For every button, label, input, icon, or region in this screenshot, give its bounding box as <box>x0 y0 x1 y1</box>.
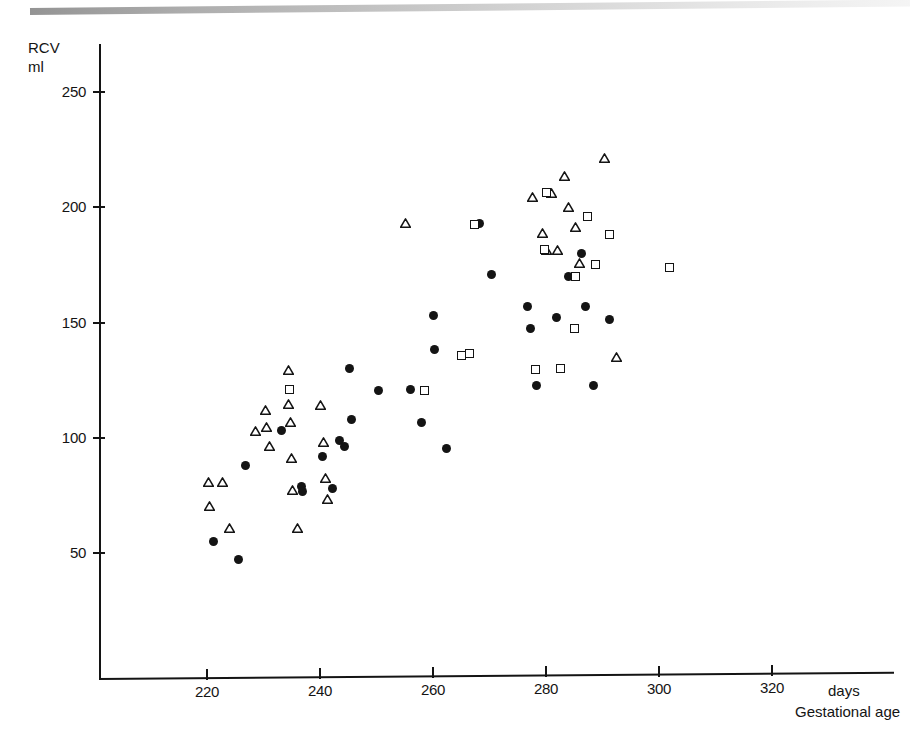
data-point-filled-circle <box>487 270 496 279</box>
x-axis-tick <box>545 666 547 677</box>
data-point-filled-circle <box>417 418 426 427</box>
data-point-filled-circle <box>526 324 535 333</box>
data-point-open-square <box>583 212 592 221</box>
data-point-open-triangle <box>203 477 214 487</box>
data-point-open-triangle <box>322 494 333 504</box>
data-point-filled-circle <box>429 311 438 320</box>
data-point-filled-circle <box>241 461 250 470</box>
data-point-open-triangle <box>217 477 228 487</box>
data-point-open-square <box>605 230 614 239</box>
data-point-filled-circle <box>442 444 451 453</box>
data-point-open-square <box>531 365 540 374</box>
y-axis-tick <box>93 206 105 208</box>
data-point-open-triangle <box>283 365 294 375</box>
data-point-open-triangle <box>285 417 296 427</box>
data-point-filled-circle <box>577 249 586 258</box>
x-axis-tick <box>319 668 321 679</box>
data-point-open-triangle <box>260 405 271 415</box>
x-axis-title: Gestational age <box>795 703 900 720</box>
x-axis-tick-label: 240 <box>297 682 343 699</box>
y-axis-tick-label: 50 <box>40 544 86 561</box>
y-axis-tick-label: 250 <box>40 83 86 100</box>
data-point-open-triangle <box>287 485 298 495</box>
x-axis-tick-label: 320 <box>749 679 795 696</box>
data-point-filled-circle <box>318 452 327 461</box>
figure-scatter-plot: RCV ml days Gestational age 250200150100… <box>0 0 918 738</box>
data-point-filled-circle <box>581 302 590 311</box>
x-axis-tick-label: 220 <box>184 683 230 700</box>
data-point-filled-circle <box>532 381 541 390</box>
data-point-open-square <box>542 188 551 197</box>
scan-artifact-bar <box>30 0 910 15</box>
x-axis-tick-label: 280 <box>523 680 569 697</box>
data-point-filled-circle <box>328 484 337 493</box>
data-point-open-square <box>285 385 294 394</box>
data-point-open-triangle <box>286 453 297 463</box>
data-point-open-triangle <box>320 473 331 483</box>
x-axis-tick <box>206 669 208 680</box>
data-point-filled-circle <box>605 315 614 324</box>
x-axis-tick <box>771 665 773 676</box>
data-point-open-triangle <box>204 501 215 511</box>
data-point-open-square <box>571 272 580 281</box>
data-point-open-triangle <box>563 202 574 212</box>
data-point-open-square <box>556 364 565 373</box>
data-point-filled-circle <box>345 364 354 373</box>
data-point-open-square <box>591 260 600 269</box>
data-point-open-square <box>470 220 479 229</box>
data-point-filled-circle <box>277 426 286 435</box>
x-axis-tick-label: 260 <box>410 681 456 698</box>
data-point-open-triangle <box>264 441 275 451</box>
y-axis-tick <box>93 552 105 554</box>
data-point-open-triangle <box>527 192 538 202</box>
y-axis-tick <box>93 322 105 324</box>
data-point-open-triangle <box>315 400 326 410</box>
data-point-open-square <box>665 263 674 272</box>
x-axis-tick <box>432 667 434 678</box>
data-point-open-triangle <box>261 422 272 432</box>
data-point-open-triangle <box>559 171 570 181</box>
data-point-filled-circle <box>347 415 356 424</box>
y-axis-tick <box>93 437 105 439</box>
data-point-open-triangle <box>292 523 303 533</box>
x-axis-tick <box>658 666 660 677</box>
y-axis-tick-label: 200 <box>40 198 86 215</box>
data-point-open-triangle <box>283 399 294 409</box>
data-point-open-square <box>465 349 474 358</box>
data-point-filled-circle <box>552 313 561 322</box>
y-axis-tick <box>93 91 105 93</box>
data-point-open-triangle <box>599 153 610 163</box>
data-point-filled-circle <box>589 381 598 390</box>
data-point-filled-circle <box>406 385 415 394</box>
data-point-filled-circle <box>340 442 349 451</box>
y-axis-tick-label: 100 <box>40 429 86 446</box>
data-point-filled-circle <box>374 386 383 395</box>
data-point-open-triangle <box>611 352 622 362</box>
y-axis-line <box>99 44 101 680</box>
data-point-open-square <box>540 245 549 254</box>
data-point-filled-circle <box>298 487 307 496</box>
x-axis-unit-label: days <box>828 682 860 699</box>
data-point-open-triangle <box>570 222 581 232</box>
y-axis-title: RCV ml <box>28 38 60 76</box>
plot-data-markers <box>0 0 918 738</box>
y-axis-tick-label: 150 <box>40 314 86 331</box>
data-point-open-square <box>570 324 579 333</box>
data-point-open-triangle <box>537 228 548 238</box>
data-point-open-triangle <box>574 258 585 268</box>
data-point-filled-circle <box>209 537 218 546</box>
data-point-filled-circle <box>523 302 532 311</box>
data-point-open-triangle <box>250 426 261 436</box>
data-point-filled-circle <box>234 555 243 564</box>
data-point-open-triangle <box>552 245 563 255</box>
x-axis-tick-label: 300 <box>636 680 682 697</box>
data-point-open-square <box>420 386 429 395</box>
data-point-open-triangle <box>224 523 235 533</box>
data-point-open-triangle <box>318 437 329 447</box>
data-point-open-triangle <box>400 218 411 228</box>
data-point-filled-circle <box>430 345 439 354</box>
